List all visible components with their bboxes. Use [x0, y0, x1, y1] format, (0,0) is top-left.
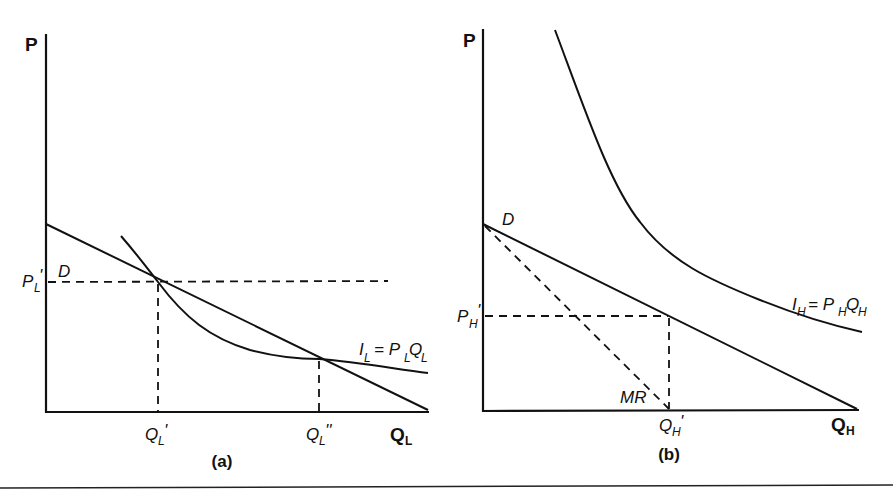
- svg-text:L: L: [364, 351, 371, 365]
- iso-revenue-label-a: I L = P L Q L: [359, 340, 428, 365]
- q2-label-a: Q L '': [306, 421, 332, 448]
- svg-text:L: L: [405, 434, 412, 448]
- svg-text:Q: Q: [390, 424, 405, 445]
- svg-text:': ': [477, 301, 481, 320]
- svg-text:': ': [164, 421, 168, 440]
- svg-text:= P: = P: [374, 340, 401, 359]
- mr-label-b: MR: [620, 388, 646, 407]
- demand-label-b: D: [502, 210, 514, 229]
- svg-text:P: P: [457, 307, 469, 326]
- iso-revenue-curve-b: [555, 30, 862, 332]
- x-axis-label-b: Q H: [831, 414, 855, 438]
- panel-b: P D MR P H ' Q H ' Q H I H = P H Q H: [457, 29, 867, 464]
- svg-text:': ': [680, 412, 684, 431]
- diagram-canvas: P D P L ' Q L ' Q L '' Q L I L: [0, 0, 893, 496]
- y-axis-label-b: P: [463, 30, 476, 51]
- svg-text:= P: = P: [808, 295, 835, 314]
- iso-revenue-label-b: I H = P H Q H: [792, 295, 867, 319]
- x-axis-b: [482, 410, 859, 411]
- svg-text:': ': [39, 266, 43, 285]
- price-label-b: P H ': [457, 301, 481, 331]
- caption-a: (a): [212, 452, 233, 471]
- demand-label-a: D: [58, 262, 70, 281]
- svg-text:Q: Q: [145, 425, 158, 444]
- svg-text:L: L: [421, 351, 428, 365]
- svg-text:Q: Q: [659, 416, 672, 435]
- caption-b: (b): [658, 445, 680, 464]
- bottom-rule: [0, 485, 893, 488]
- demand-line-a: [46, 224, 428, 410]
- marginal-revenue-line-b: [485, 226, 669, 409]
- q1-label-a: Q L ': [145, 421, 168, 448]
- svg-text:H: H: [858, 305, 867, 319]
- svg-text:'': '': [325, 421, 332, 440]
- panel-a: P D P L ' Q L ' Q L '' Q L I L: [22, 34, 429, 471]
- svg-text:Q: Q: [306, 425, 319, 444]
- price-ref-line-a: [48, 281, 388, 282]
- q1-label-b: Q H ': [659, 412, 684, 439]
- svg-text:H: H: [846, 424, 855, 438]
- svg-text:H: H: [797, 305, 806, 319]
- x-axis-label-a: Q L: [390, 424, 412, 448]
- svg-text:Q: Q: [831, 414, 846, 435]
- y-axis-label-a: P: [25, 34, 38, 55]
- svg-text:P: P: [22, 272, 34, 291]
- price-label-a: P L ': [22, 266, 43, 295]
